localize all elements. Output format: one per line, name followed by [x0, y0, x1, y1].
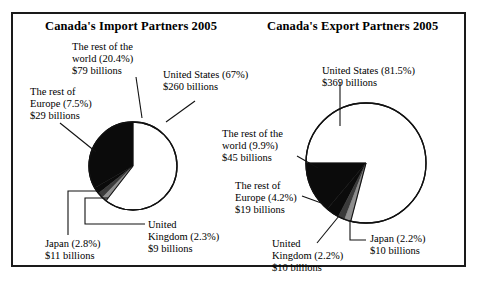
- export-label-rest-of-world: The rest of the world (9.9%) $45 billion…: [222, 128, 283, 163]
- pie-chart-figure: Canada's Import Partners 2005 Canada's E…: [0, 0, 481, 283]
- import-rest-of-europe-value: $29 billions: [30, 110, 92, 122]
- export-rest-of-europe-line2: Europe (4.2%): [235, 192, 297, 204]
- import-united-kingdom-line2: Kingdom (2.3%): [148, 231, 219, 243]
- export-label-rest-of-europe: The rest of Europe (4.2%) $19 billions: [235, 180, 297, 215]
- import-united-states-name: United States (67%): [163, 69, 248, 81]
- import-label-united-states: United States (67%) $260 billions: [163, 69, 248, 93]
- import-rest-of-world-line1: The rest of the: [72, 41, 133, 53]
- export-label-united-kingdom: United Kingdom (2.2%) $10 billions: [272, 238, 343, 273]
- import-rest-of-europe-line1: The rest of: [30, 86, 92, 98]
- export-japan-name: Japan (2.2%): [370, 233, 425, 245]
- export-label-japan: Japan (2.2%) $10 billions: [370, 233, 425, 257]
- import-united-states-value: $260 billions: [163, 81, 248, 93]
- export-rest-of-world-line2: world (9.9%): [222, 140, 283, 152]
- import-rest-of-europe-line2: Europe (7.5%): [30, 98, 92, 110]
- import-label-united-kingdom: United Kingdom (2.3%) $9 billions: [148, 219, 219, 254]
- export-united-states-name: United States (81.5%): [322, 65, 415, 77]
- import-chart-title: Canada's Import Partners 2005: [45, 19, 217, 34]
- export-rest-of-world-line1: The rest of the: [222, 128, 283, 140]
- import-label-rest-of-world: The rest of the world (20.4%) $79 billio…: [72, 41, 133, 76]
- import-label-rest-of-europe: The rest of Europe (7.5%) $29 billions: [30, 86, 92, 121]
- export-label-united-states: United States (81.5%) $369 billions: [322, 65, 415, 89]
- import-japan-name: Japan (2.8%): [45, 238, 100, 250]
- export-japan-value: $10 billions: [370, 245, 425, 257]
- export-united-kingdom-value: $10 billions: [272, 262, 343, 274]
- export-united-states-value: $369 billions: [322, 77, 415, 89]
- export-united-kingdom-line1: United: [272, 238, 343, 250]
- export-united-kingdom-line2: Kingdom (2.2%): [272, 250, 343, 262]
- export-rest-of-world-value: $45 billions: [222, 152, 283, 164]
- export-rest-of-europe-value: $19 billions: [235, 204, 297, 216]
- export-chart-title: Canada's Export Partners 2005: [267, 19, 438, 34]
- import-japan-value: $11 billions: [45, 250, 100, 262]
- import-rest-of-world-value: $79 billions: [72, 65, 133, 77]
- import-united-kingdom-value: $9 billions: [148, 243, 219, 255]
- import-label-japan: Japan (2.8%) $11 billions: [45, 238, 100, 262]
- import-rest-of-world-line2: world (20.4%): [72, 53, 133, 65]
- import-united-kingdom-line1: United: [148, 219, 219, 231]
- export-rest-of-europe-line1: The rest of: [235, 180, 297, 192]
